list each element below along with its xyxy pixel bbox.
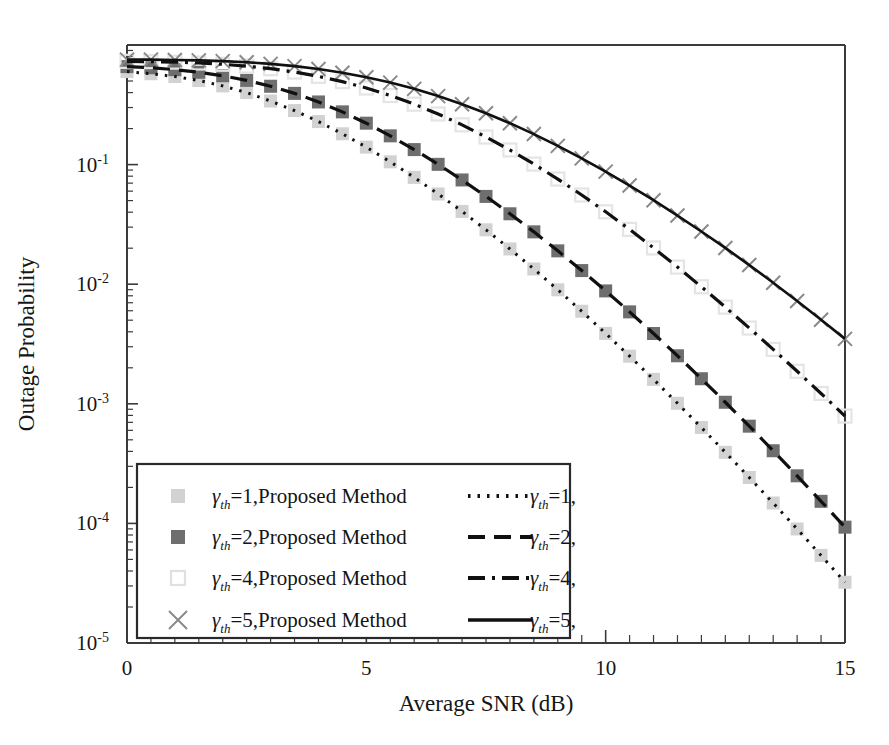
- series-gth4-proposed: [121, 55, 852, 423]
- legend-symbol-filled-square: [171, 530, 185, 544]
- chart-canvas: 10-110-210-310-410-5 051015 Average SNR …: [0, 0, 889, 745]
- data-marker: [408, 171, 421, 184]
- outage-probability-figure: 10-110-210-310-410-5 051015 Average SNR …: [0, 0, 889, 745]
- data-marker: [360, 141, 373, 154]
- legend-label: γth=4,: [530, 566, 576, 594]
- y-tick-label: 10-3: [76, 391, 109, 416]
- legend-label: γth=1,: [530, 484, 576, 512]
- y-tick-label: 10-5: [76, 630, 109, 655]
- legend[interactable]: γth=1,Proposed Methodγth=2,Proposed Meth…: [137, 464, 576, 638]
- legend-label: γth=5,Proposed Method: [212, 608, 407, 636]
- data-marker: [647, 373, 660, 386]
- x-tick-label: 10: [595, 656, 616, 680]
- legend-label: γth=1,Proposed Method: [212, 484, 407, 512]
- legend-label: γth=5,: [530, 608, 576, 636]
- series-gth2-analytical: [127, 67, 845, 528]
- legend-label: γth=4,Proposed Method: [212, 566, 407, 594]
- legend-label: γth=2,Proposed Method: [212, 525, 407, 553]
- legend-label: γth=2,: [530, 525, 576, 553]
- data-marker: [264, 95, 277, 108]
- data-marker: [599, 327, 612, 340]
- y-tick-label: 10-4: [76, 510, 109, 535]
- x-axis-title: Average SNR (dB): [399, 691, 574, 716]
- x-tick-label: 5: [361, 656, 372, 680]
- data-marker: [171, 530, 185, 544]
- data-marker: [240, 86, 253, 99]
- x-tick-label: 0: [122, 656, 133, 680]
- data-marker: [480, 131, 493, 144]
- y-axis-title: Outage Probability: [14, 256, 39, 431]
- x-tick-label: 15: [835, 656, 856, 680]
- x-axis-tick-labels: 051015: [122, 656, 856, 680]
- legend-symbol-filled-square: [171, 489, 185, 503]
- y-axis-tick-labels: 10-110-210-310-410-5: [76, 152, 109, 655]
- data-marker: [336, 127, 349, 140]
- y-tick-label: 10-1: [76, 152, 109, 177]
- data-marker: [839, 576, 852, 589]
- data-marker: [171, 489, 185, 503]
- y-tick-label: 10-2: [76, 271, 109, 296]
- data-marker: [384, 155, 397, 168]
- data-marker: [312, 115, 325, 128]
